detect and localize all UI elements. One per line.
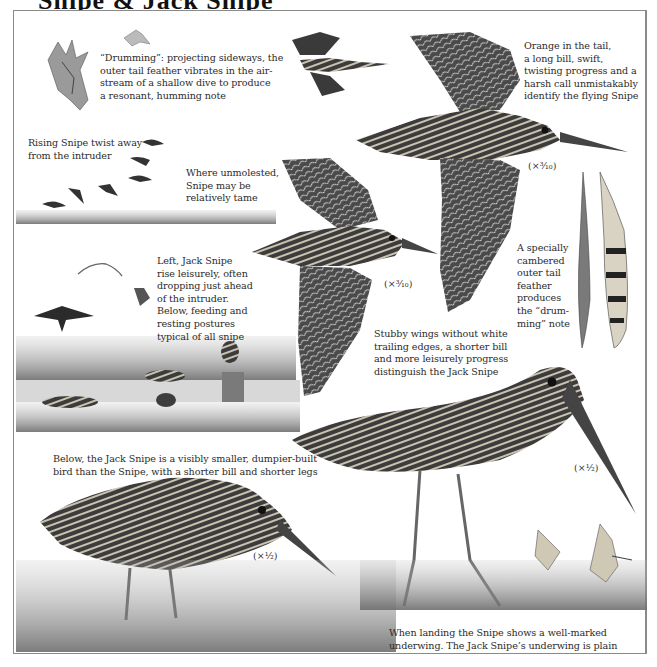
scale-jack-flight: (×³⁄₁₀) <box>384 278 412 289</box>
scale-snipe-flight: (×³⁄₁₀) <box>528 160 556 171</box>
caption-unmolested: Where unmolested, Snipe may be relativel… <box>186 167 279 205</box>
caption-size-comparison: Below, the Jack Snipe is a visibly small… <box>53 453 317 478</box>
small-flying-snipe <box>292 32 390 96</box>
jack-snipe-rising <box>34 264 150 332</box>
caption-jack-snipe-rise: Left, Jack Snipe rise leisurely, often d… <box>157 255 253 343</box>
scale-jack-standing: (×¹⁄₂) <box>253 550 278 561</box>
caption-rising-snipe: Rising Snipe twist away from the intrude… <box>28 137 142 162</box>
marsh-strip-top <box>16 210 276 224</box>
caption-tail-feather: A specially cambered outer tail feather … <box>517 242 570 330</box>
outer-tail-feathers <box>578 172 627 348</box>
caption-flying-snipe: Orange in the tail, a long bill, swift, … <box>524 40 638 103</box>
scale-snipe-standing: (×¹⁄₂) <box>574 462 599 473</box>
marsh-scene <box>16 336 300 432</box>
caption-landing: When landing the Snipe shows a well-mark… <box>389 627 617 652</box>
caption-stubby-wings: Stubby wings without white trailing edge… <box>374 328 508 378</box>
caption-drumming: “Drumming”: projecting sideways, the out… <box>100 52 283 102</box>
jack-snipe-standing <box>16 478 396 652</box>
